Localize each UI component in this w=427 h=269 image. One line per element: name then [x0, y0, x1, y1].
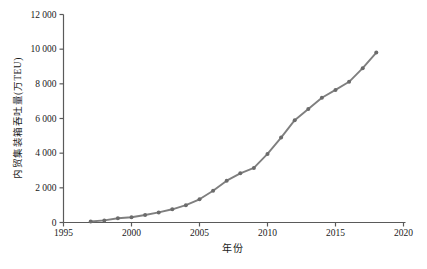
x-tick-label: 2020	[394, 228, 413, 238]
x-tick-label: 2005	[190, 228, 209, 238]
data-point	[102, 218, 106, 222]
data-point	[211, 189, 215, 193]
data-point	[279, 136, 283, 140]
x-tick-label: 2000	[122, 228, 141, 238]
y-tick-label: 6 000	[35, 114, 57, 124]
plot-canvas: 02 0004 0006 0008 00010 00012 0001995200…	[0, 0, 427, 269]
data-point	[293, 118, 297, 122]
data-point	[198, 197, 202, 201]
series-line	[91, 53, 377, 222]
data-point	[361, 66, 365, 70]
y-tick-label: 10 000	[30, 44, 56, 54]
data-point	[116, 216, 120, 220]
x-tick-label: 2010	[258, 228, 277, 238]
data-point	[225, 179, 229, 183]
data-point	[347, 80, 351, 84]
throughput-line-chart: 02 0004 0006 0008 00010 00012 0001995200…	[0, 0, 427, 269]
x-tick-label: 1995	[54, 228, 73, 238]
x-axis-title: 年份	[222, 240, 244, 255]
data-point	[306, 107, 310, 111]
data-point	[266, 152, 270, 156]
data-point	[238, 171, 242, 175]
y-tick-label: 4 000	[35, 148, 57, 158]
data-point	[320, 96, 324, 100]
data-point	[334, 88, 338, 92]
data-point	[89, 220, 93, 224]
y-axis-title: 内贸集装箱吞吐量(万TEU)	[10, 8, 24, 228]
y-tick-label: 12 000	[30, 10, 56, 20]
data-point	[184, 203, 188, 207]
data-point	[130, 215, 134, 219]
y-tick-label: 0	[52, 218, 57, 228]
data-point	[170, 207, 174, 211]
y-tick-label: 2 000	[35, 183, 57, 193]
data-point	[374, 51, 378, 55]
data-point	[252, 166, 256, 170]
x-tick-label: 2015	[326, 228, 345, 238]
y-tick-label: 8 000	[35, 79, 57, 89]
data-point	[143, 213, 147, 217]
data-point	[157, 210, 161, 214]
